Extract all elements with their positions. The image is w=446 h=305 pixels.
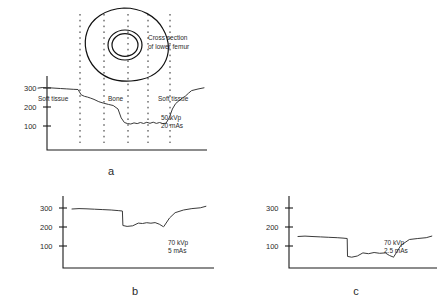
femur-medullary-canal-circle	[112, 34, 138, 57]
figure-canvas: Cross section of lower femur 300 200 100…	[0, 0, 446, 305]
panel-a: 300 200 100 Soft tissue Bone Soft tissue…	[24, 76, 207, 177]
panel-a-ticklabel-200: 200	[24, 103, 37, 112]
panel-b-attenuation-trace	[72, 206, 206, 227]
cross-section-annotation-line1: Cross section	[148, 34, 188, 41]
femur-cortex-outer-circle	[108, 30, 142, 60]
panel-c-ticklabel-200: 200	[266, 223, 279, 232]
panel-c-axes	[289, 196, 437, 268]
panel-b-exposure-kvp: 70 kVp	[168, 239, 189, 247]
panel-b: 300 200 100 70 kVp 5 mAs b	[40, 196, 214, 297]
panel-b-ticklabel-200: 200	[40, 223, 53, 232]
panel-c-attenuation-trace	[298, 236, 432, 257]
panel-a-caption: a	[108, 165, 115, 177]
panel-b-ticklabel-300: 300	[40, 204, 53, 213]
panel-a-exposure-kvp: 50 kVp	[161, 114, 182, 122]
panel-b-exposure-mas: 5 mAs	[168, 247, 187, 254]
panel-b-axes	[63, 196, 214, 268]
panel-b-caption: b	[132, 285, 138, 297]
cross-section-annotation-line2: of lower femur	[148, 43, 190, 50]
radiographic-attenuation-figure: Cross section of lower femur 300 200 100…	[0, 0, 446, 305]
panel-c-ticklabel-300: 300	[266, 204, 279, 213]
panel-c-exposure-mas: 2.5 mAs	[384, 247, 409, 254]
panel-a-axes	[47, 76, 207, 150]
panel-c: 300 200 100 70 kVp 2.5 mAs c	[266, 196, 437, 297]
panel-a-region-label-bone: Bone	[108, 95, 124, 102]
panel-c-ticklabel-100: 100	[266, 242, 279, 251]
panel-b-ticklabel-100: 100	[40, 242, 53, 251]
panel-c-caption: c	[353, 285, 359, 297]
panel-a-region-label-soft-tissue-right: Soft tissue	[158, 95, 189, 102]
panel-a-exposure-mas: 20 mAs	[161, 122, 184, 129]
panel-c-exposure-kvp: 70 kVp	[384, 239, 405, 247]
panel-a-ticklabel-300: 300	[24, 84, 37, 93]
panel-a-ticklabel-100: 100	[24, 122, 37, 131]
panel-a-region-label-soft-tissue-left: Soft tissue	[38, 95, 69, 102]
